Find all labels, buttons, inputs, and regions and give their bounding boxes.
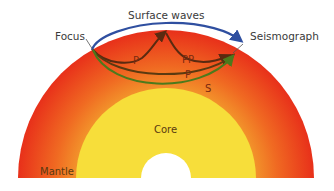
seismograph-label: Seismograph [250, 30, 319, 42]
focus-leader-line [86, 39, 93, 50]
p-reflected-wave-label: P [133, 55, 139, 66]
p-direct-wave-label: P [185, 69, 191, 80]
pp-wave-label: PP [182, 54, 194, 65]
focus-label: Focus [55, 30, 85, 42]
s-wave-label: S [205, 83, 211, 94]
core-label: Core [154, 124, 177, 135]
surface-waves-label: Surface waves [128, 9, 205, 21]
mantle-label: Mantle [40, 166, 74, 177]
seismic-wave-diagram: Surface waves Focus Seismograph P PP P S… [0, 0, 334, 191]
